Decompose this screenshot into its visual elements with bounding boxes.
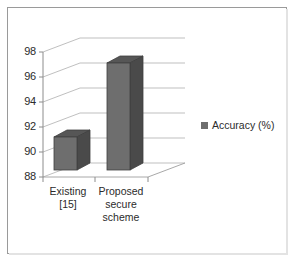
square-marker-icon (201, 122, 208, 129)
category-label-proposed: Proposed secure scheme (90, 185, 152, 224)
bar-proposed[interactable] (107, 56, 143, 170)
y-tick-label-96: 96 (14, 71, 36, 82)
y-tick-label-94: 94 (14, 96, 36, 107)
x-axis-ticks (43, 177, 148, 182)
bar-proposed-front-face (107, 63, 130, 170)
bar-existing-side-face (77, 130, 90, 170)
y-tick-label-90: 90 (14, 146, 36, 157)
category-label-proposed-line1: Proposed (90, 185, 152, 198)
chart-legend[interactable]: Accuracy (%) (201, 119, 274, 131)
bar-existing-front-face (54, 137, 77, 170)
y-tick-label-92: 92 (14, 121, 36, 132)
category-label-proposed-line3: scheme (90, 211, 152, 224)
y-tick-label-88: 88 (14, 171, 36, 182)
chart-figure: 98 96 94 92 90 88 Existing [15] Proposed… (0, 0, 295, 262)
category-label-proposed-line2: secure (90, 198, 152, 211)
bar-proposed-side-face (130, 56, 143, 170)
bar-existing[interactable] (54, 130, 90, 170)
gridline-98 (43, 38, 185, 52)
y-tick-label-98: 98 (14, 46, 36, 57)
floor-right-edge (148, 163, 185, 177)
legend-item-label: Accuracy (%) (212, 119, 274, 131)
y-axis (39, 52, 43, 177)
